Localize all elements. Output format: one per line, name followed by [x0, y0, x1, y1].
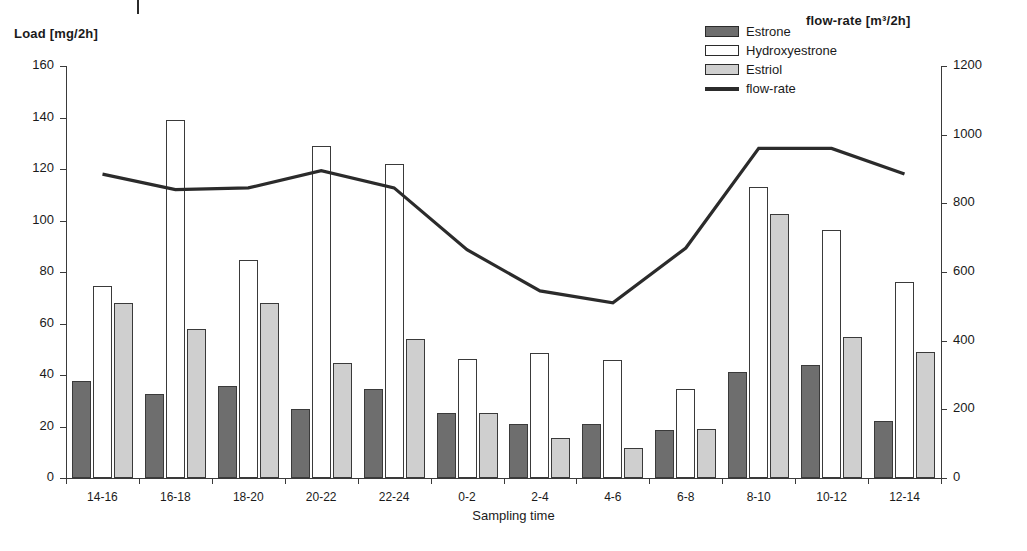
flow-rate-line-series [66, 66, 941, 478]
x-category-label: 20-22 [285, 490, 358, 504]
x-tick-mark [649, 478, 650, 484]
left-tick-label: 140 [0, 109, 54, 124]
right-tick-label: 1000 [953, 126, 982, 141]
legend-label-hydroxyestrone: Hydroxyestrone [746, 43, 837, 58]
estrone-swatch-icon [705, 26, 739, 37]
right-tick-label: 800 [953, 194, 975, 209]
right-tick-mark [941, 341, 947, 342]
left-tick-label: 20 [0, 418, 54, 433]
x-category-label: 22-24 [358, 490, 431, 504]
right-tick-mark [941, 409, 947, 410]
left-tick-label: 40 [0, 366, 54, 381]
x-tick-mark [576, 478, 577, 484]
right-tick-label: 200 [953, 400, 975, 415]
left-tick-label: 80 [0, 263, 54, 278]
right-tick-label: 400 [953, 332, 975, 347]
legend-item-hydroxyestrone: Hydroxyestrone [705, 41, 895, 60]
legend-label-estrone: Estrone [746, 24, 791, 39]
x-tick-mark [285, 478, 286, 484]
left-axis-title: Load [mg/2h] [14, 26, 98, 41]
x-category-label: 12-14 [868, 490, 941, 504]
x-category-label: 10-12 [795, 490, 868, 504]
left-tick-label: 160 [0, 57, 54, 72]
plot-area [66, 66, 941, 478]
x-tick-mark [722, 478, 723, 484]
right-tick-mark [941, 203, 947, 204]
right-tick-label: 0 [953, 469, 960, 484]
x-tick-mark [139, 478, 140, 484]
x-category-label: 4-6 [576, 490, 649, 504]
x-category-label: 2-4 [504, 490, 577, 504]
left-tick-label: 0 [0, 469, 54, 484]
x-tick-mark [431, 478, 432, 484]
left-tick-label: 100 [0, 212, 54, 227]
right-tick-mark [941, 135, 947, 136]
x-category-label: 6-8 [649, 490, 722, 504]
x-tick-mark [358, 478, 359, 484]
x-axis-title: Sampling time [0, 508, 1027, 523]
chart-canvas: Load [mg/2h] flow-rate [m³/2h] Estrone H… [0, 0, 1027, 551]
left-tick-label: 60 [0, 315, 54, 330]
left-tick-label: 120 [0, 160, 54, 175]
hydroxyestrone-swatch-icon [705, 45, 739, 56]
right-tick-mark [941, 66, 947, 67]
x-category-label: 14-16 [66, 490, 139, 504]
right-tick-label: 600 [953, 263, 975, 278]
x-category-label: 16-18 [139, 490, 212, 504]
x-tick-mark [66, 478, 67, 484]
x-tick-mark [795, 478, 796, 484]
x-category-label: 8-10 [722, 490, 795, 504]
right-tick-mark [941, 272, 947, 273]
x-tick-mark [212, 478, 213, 484]
x-tick-mark [868, 478, 869, 484]
x-category-label: 0-2 [431, 490, 504, 504]
x-tick-mark [504, 478, 505, 484]
right-tick-label: 1200 [953, 57, 982, 72]
legend-item-estrone: Estrone [705, 22, 895, 41]
x-tick-mark [941, 478, 942, 484]
top-rule [137, 0, 139, 14]
x-category-label: 18-20 [212, 490, 285, 504]
